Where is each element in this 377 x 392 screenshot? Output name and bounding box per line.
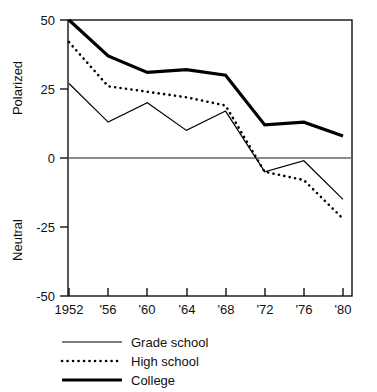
x-tick-label-1952: 1952 [55, 302, 84, 317]
y-axis-label-polarized: Polarized [10, 61, 25, 115]
x-tick-label-1976: '76 [296, 302, 313, 317]
x-tick-label-1960: '60 [139, 302, 156, 317]
x-tick-label-1968: '68 [218, 302, 235, 317]
y-tick-label-neg50: -50 [36, 289, 55, 304]
x-tick-label-1972: '72 [257, 302, 274, 317]
x-tick-label-1980: '80 [335, 302, 352, 317]
y-tick-label-50: 50 [41, 13, 55, 28]
legend-label-college: College [131, 373, 175, 388]
legend-label-grade-school: Grade school [131, 335, 208, 350]
legend-label-high-school: High school [131, 354, 199, 369]
x-tick-label-1956: '56 [100, 302, 117, 317]
y-tick-label-0: 0 [48, 151, 55, 166]
y-tick-label-neg25: -25 [36, 220, 55, 235]
x-tick-label-1964: '64 [179, 302, 196, 317]
y-tick-label-25: 25 [41, 82, 55, 97]
polarization-line-chart: 50 25 0 -25 -50 Polarized Neutral 1952 '… [0, 0, 377, 392]
y-axis-label-neutral: Neutral [10, 219, 25, 261]
